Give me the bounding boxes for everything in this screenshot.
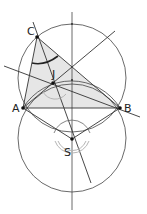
point-s [70, 137, 74, 141]
triangle-abc [23, 37, 120, 108]
segment-sa [23, 108, 72, 139]
geometry-figure: A B C J S [0, 0, 147, 214]
point-b [118, 106, 122, 110]
label-c: C [27, 25, 35, 38]
point-j [51, 81, 55, 85]
point-mid-j [71, 79, 73, 81]
label-b: B [124, 102, 132, 115]
label-s: S [64, 146, 71, 159]
segment-sb [72, 108, 120, 139]
point-mid-upper [71, 23, 73, 25]
label-a: A [12, 102, 20, 115]
point-a [21, 106, 25, 110]
point-c [35, 35, 39, 39]
label-j: J [51, 68, 55, 81]
